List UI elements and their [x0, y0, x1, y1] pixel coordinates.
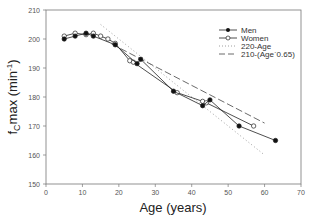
x-tick-label: 10: [79, 189, 87, 196]
series-220-age: [101, 25, 265, 156]
y-title-rest: max (min: [5, 71, 20, 124]
x-axis-title: Age (years): [139, 200, 206, 215]
y-tick-label: 190: [28, 65, 40, 72]
y-axis-title: fCmax (min-1): [5, 59, 22, 134]
data-point-women: [98, 34, 102, 38]
data-point-men: [73, 34, 77, 38]
data-point-men: [200, 104, 204, 108]
data-point-men: [171, 89, 175, 93]
data-point-men: [237, 124, 241, 128]
x-tick-label: 60: [261, 189, 269, 196]
x-tick-label: 70: [297, 189, 305, 196]
x-tick-label: 20: [115, 189, 123, 196]
data-point-men: [113, 43, 117, 47]
data-point-men: [135, 61, 139, 65]
series-women: [62, 31, 256, 128]
open-circle-icon: [226, 36, 230, 40]
legend-item-210-age: 210-(Age`0.65): [219, 50, 295, 59]
data-point-men: [84, 31, 88, 35]
data-point-men: [62, 37, 66, 41]
y-title-close: ): [5, 59, 20, 63]
y-tick-label: 170: [28, 123, 40, 130]
y-tick-label: 210: [28, 7, 40, 14]
x-tick-label: 50: [224, 189, 232, 196]
data-point-men: [208, 98, 212, 102]
legend: Men Women 220-Age 210-(Age`0.65): [219, 26, 295, 59]
data-point-men: [273, 138, 277, 142]
y-tick-label: 150: [28, 181, 40, 188]
filled-circle-icon: [226, 28, 230, 32]
x-tick-label: 40: [188, 189, 196, 196]
data-point-women: [251, 124, 255, 128]
x-tick-label: 30: [151, 189, 159, 196]
y-tick-label: 180: [28, 94, 40, 101]
y-tick-label: 160: [28, 152, 40, 159]
svg-text:fCmax (min-1): fCmax (min-1): [5, 59, 22, 134]
y-axis: 150160170180190200210: [28, 7, 46, 188]
data-point-men: [91, 34, 95, 38]
x-axis: 010203040506070: [44, 184, 305, 196]
data-point-men: [139, 57, 143, 61]
chart: 150160170180190200210 010203040506070 Ag…: [0, 0, 313, 222]
svg-text:210-(Age`0.65): 210-(Age`0.65): [241, 50, 295, 59]
x-tick-label: 0: [44, 189, 48, 196]
y-tick-label: 200: [28, 36, 40, 43]
data-point-women: [106, 37, 110, 41]
